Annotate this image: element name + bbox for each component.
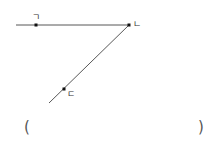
label-nieun: ㄴ xyxy=(133,20,141,29)
answer-open-paren: ( xyxy=(24,120,30,135)
point-giyeok xyxy=(35,24,38,27)
point-digeut xyxy=(63,88,66,91)
label-giyeok: ㄱ xyxy=(32,13,40,22)
label-digeut: ㄷ xyxy=(67,90,75,99)
answer-close-paren: ) xyxy=(198,120,204,135)
diagonal-line xyxy=(49,25,129,103)
point-nieun xyxy=(128,24,131,27)
